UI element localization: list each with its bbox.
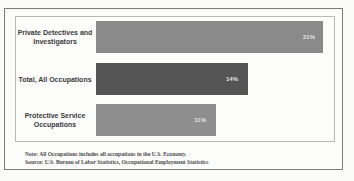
- bar-private-detectives: 21%: [96, 21, 323, 53]
- bar-total-all-occupations: 14%: [96, 63, 248, 95]
- category-label-line2: Investigators: [33, 38, 77, 45]
- note-text: Note: All Occupations includes all occup…: [25, 150, 209, 158]
- chart-notes: Note: All Occupations includes all occup…: [25, 150, 209, 166]
- bar-value-label: 14%: [226, 76, 238, 82]
- category-label-line1: Total, All Occupations: [18, 76, 91, 83]
- category-label: Protective ServiceOccupations: [16, 104, 94, 136]
- category-label: Total, All Occupations: [16, 63, 94, 95]
- category-label: Private Detectives andInvestigators: [16, 21, 94, 53]
- category-label-line1: Protective Service: [25, 112, 86, 119]
- source-text: Source: U.S. Bureau of Labor Statistics,…: [25, 158, 209, 166]
- category-label-line1: Private Detectives and: [18, 29, 93, 36]
- category-label-line2: Occupations: [34, 121, 76, 128]
- bar-protective-service: 11%: [96, 104, 216, 136]
- bar-value-label: 21%: [303, 34, 315, 40]
- bar-value-label: 11%: [194, 117, 206, 123]
